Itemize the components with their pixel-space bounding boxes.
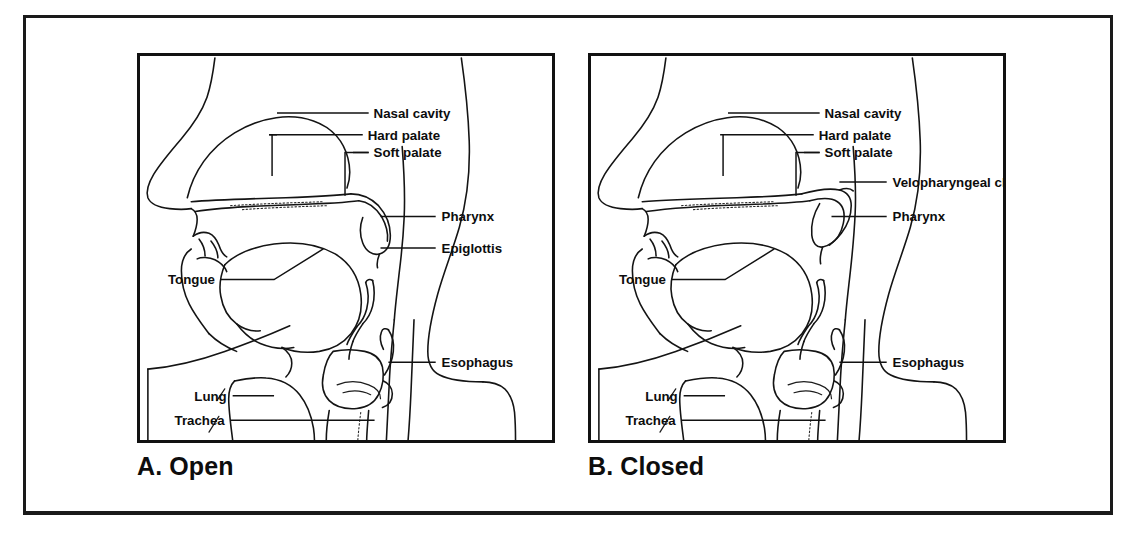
label-hard-palate: Hard palate	[819, 128, 891, 143]
panel-b-border: Nasal cavity Hard palate Soft palate Vel…	[588, 53, 1006, 443]
label-lung: Lung	[194, 389, 226, 404]
panel-a-border: Nasal cavity Hard palate Soft palate Pha…	[137, 53, 555, 443]
label-pharynx: Pharynx	[442, 209, 495, 224]
label-pharynx: Pharynx	[893, 209, 946, 224]
label-trachea: Trachea	[175, 413, 226, 428]
label-hard-palate: Hard palate	[368, 128, 440, 143]
panel-a-open: Nasal cavity Hard palate Soft palate Pha…	[137, 53, 555, 443]
panel-a-caption: A. Open	[137, 452, 234, 481]
panel-b-caption: B. Closed	[588, 452, 704, 481]
label-esophagus: Esophagus	[893, 355, 965, 370]
panel-b-closed: Nasal cavity Hard palate Soft palate Vel…	[588, 53, 1006, 443]
label-tongue: Tongue	[619, 272, 666, 287]
label-lung: Lung	[645, 389, 677, 404]
figure-root: Nasal cavity Hard palate Soft palate Pha…	[0, 0, 1129, 534]
label-velopharyngeal-closure: Velopharyngeal closure	[893, 175, 1003, 190]
label-nasal-cavity: Nasal cavity	[825, 106, 902, 121]
label-tongue: Tongue	[168, 272, 215, 287]
label-soft-palate: Soft palate	[825, 145, 893, 160]
panel-a-drawing: Nasal cavity Hard palate Soft palate Pha…	[140, 56, 552, 440]
label-trachea: Trachea	[626, 413, 677, 428]
label-esophagus: Esophagus	[442, 355, 514, 370]
label-soft-palate: Soft palate	[374, 145, 442, 160]
label-nasal-cavity: Nasal cavity	[374, 106, 451, 121]
label-epiglottis: Epiglottis	[442, 241, 503, 256]
panel-b-drawing: Nasal cavity Hard palate Soft palate Vel…	[591, 56, 1003, 440]
figure-bottom-rule	[23, 512, 1113, 515]
